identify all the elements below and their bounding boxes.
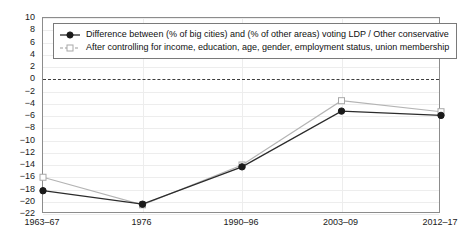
- y-tick-label: −14: [20, 160, 35, 169]
- y-tick-label: −4: [25, 98, 35, 107]
- legend-marker-open-square: [59, 42, 81, 54]
- y-tick-label: −18: [20, 184, 35, 193]
- data-point-open-square: [40, 174, 46, 180]
- x-tick-label: 1976: [131, 218, 151, 227]
- y-tick-label: −12: [20, 147, 35, 156]
- y-tick-label: 10: [25, 13, 35, 22]
- series-line: [43, 111, 441, 204]
- x-tick-label: 2003–09: [323, 218, 358, 227]
- legend-item-controlled: After controlling for income, education,…: [59, 41, 449, 54]
- y-tick-label: 6: [30, 37, 35, 46]
- x-axis-labels: 1963–6719761990–962003–092012–17: [0, 218, 471, 238]
- data-point-filled-circle: [438, 112, 444, 118]
- y-tick-label: −20: [20, 196, 35, 205]
- y-tick-label: 8: [30, 25, 35, 34]
- chart-legend: Difference between (% of big cities) and…: [53, 23, 457, 59]
- y-tick-label: −10: [20, 135, 35, 144]
- data-point-open-square: [339, 98, 345, 104]
- data-point-filled-circle: [139, 201, 145, 207]
- legend-marker-filled-circle: [59, 29, 81, 41]
- y-tick-label: −8: [25, 123, 35, 132]
- line-chart: 1086420−2−4−6−8−10−12−14−16−18−20−22 Dif…: [0, 0, 471, 241]
- x-tick-label: 2012–17: [422, 218, 457, 227]
- y-tick-label: −2: [25, 86, 35, 95]
- y-axis-labels: 1086420−2−4−6−8−10−12−14−16−18−20−22: [0, 0, 38, 241]
- y-tick-label: 4: [30, 49, 35, 58]
- x-tick-label: 1963–67: [24, 218, 59, 227]
- data-point-filled-circle: [338, 108, 344, 114]
- gridline-horizontal: [43, 214, 439, 215]
- plot-area: Difference between (% of big cities) and…: [42, 17, 440, 213]
- data-point-filled-circle: [239, 164, 245, 170]
- y-tick-label: −6: [25, 111, 35, 120]
- legend-item-difference: Difference between (% of big cities) and…: [59, 28, 449, 41]
- y-tick-label: 0: [30, 74, 35, 83]
- data-point-filled-circle: [40, 188, 46, 194]
- y-tick-label: 2: [30, 62, 35, 71]
- y-tick-label: −16: [20, 172, 35, 181]
- legend-label-controlled: After controlling for income, education,…: [86, 43, 449, 52]
- x-tick-label: 1990–96: [223, 218, 258, 227]
- series-line: [43, 101, 441, 205]
- legend-label-difference: Difference between (% of big cities) and…: [86, 30, 449, 39]
